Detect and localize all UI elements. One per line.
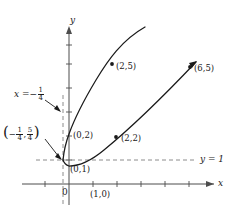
lower-branch-curve <box>63 62 196 166</box>
vline-eq-sign: − <box>29 89 37 99</box>
vertex-x-denominator: 4 <box>16 134 22 142</box>
vertex-x-numerator: 1 <box>16 127 22 134</box>
vline-eq-denominator: 4 <box>38 94 44 102</box>
vertex-label: (−14,54) <box>3 124 39 142</box>
vertex-x-sign: − <box>9 129 16 139</box>
vline-eq-numerator: 1 <box>38 87 44 94</box>
x-axis-label: x <box>218 179 223 188</box>
vertex-y-fraction: 54 <box>27 127 33 143</box>
vertex-y-numerator: 5 <box>27 127 33 134</box>
graph-canvas <box>0 0 247 215</box>
vertex-x-fraction: 14 <box>16 127 22 143</box>
point-dot-6-5 <box>188 65 192 69</box>
vline-leader-arrow <box>45 100 61 112</box>
y-axis <box>66 26 72 205</box>
origin-label: 0 <box>62 188 68 197</box>
y-axis-label: y <box>70 16 75 25</box>
point-label-2-5: (2,5) <box>116 62 136 71</box>
vline-eq-prefix: x = <box>14 89 29 99</box>
vertical-line-equation-label: x =−14 <box>14 87 45 103</box>
vertex-close-paren: ) <box>34 123 40 141</box>
point-label-2-2: (2,2) <box>121 134 141 143</box>
vertex-leader-arrow <box>45 139 62 160</box>
vline-eq-fraction: 14 <box>38 87 44 103</box>
x-axis <box>22 181 214 187</box>
vertex-y-denominator: 4 <box>27 134 33 142</box>
point-dot-2-5 <box>110 62 114 66</box>
point-dot-2-2 <box>114 135 118 139</box>
horizontal-line-equation-label: y = 1 <box>200 155 224 164</box>
point-label-0-2: (0,2) <box>73 131 93 140</box>
point-label-6-5: (6,5) <box>194 64 214 73</box>
graph-figure: y x 0 x =−14 y = 1 (−14,54) (2,5) (6,5) … <box>0 0 247 215</box>
point-label-0-1: (0,1) <box>70 165 90 174</box>
point-label-1-0: (1,0) <box>90 190 110 199</box>
